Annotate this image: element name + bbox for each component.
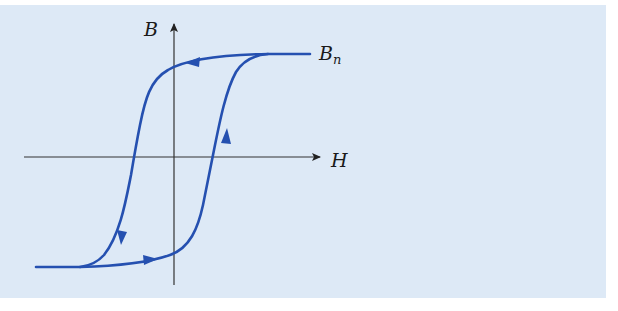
hysteresis-diagram [0, 0, 618, 311]
saturation-label-main: B [319, 42, 333, 64]
x-axis-label: H [331, 151, 348, 170]
saturation-label-subscript: n [333, 52, 341, 67]
saturation-label: Bn [319, 44, 341, 66]
arrow-up-icon [221, 128, 231, 144]
descending-branch [80, 54, 310, 267]
arrow-down-icon [117, 230, 127, 245]
y-axis-label: B [144, 20, 158, 39]
